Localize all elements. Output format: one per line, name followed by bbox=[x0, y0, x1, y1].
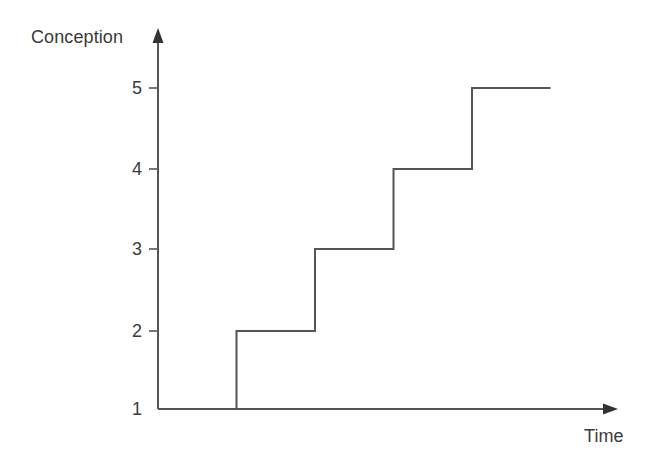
step-series-line bbox=[158, 88, 551, 409]
y-tick-label-2: 2 bbox=[120, 321, 142, 342]
y-tick-label-5: 5 bbox=[120, 78, 142, 99]
y-tick-label-4: 4 bbox=[120, 159, 142, 180]
step-chart-plot bbox=[0, 0, 660, 464]
chart-figure: Conception Time 5 4 3 2 1 bbox=[0, 0, 660, 464]
arrow-right-icon bbox=[603, 404, 618, 415]
x-axis-title: Time bbox=[584, 426, 624, 447]
y-tick-label-3: 3 bbox=[120, 239, 142, 260]
y-tick-label-1: 1 bbox=[120, 399, 142, 420]
arrow-up-icon bbox=[153, 28, 164, 43]
y-axis-title: Conception bbox=[31, 27, 123, 48]
